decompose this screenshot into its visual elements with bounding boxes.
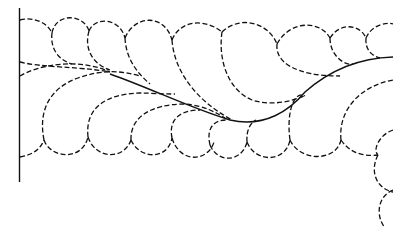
quilting-pattern-figure [0,0,393,231]
left-strands [20,62,110,76]
top-feather-row [20,18,393,120]
right-corner-scallops [374,130,393,228]
bottom-feather-row [20,72,393,158]
feather-spine [110,57,393,122]
